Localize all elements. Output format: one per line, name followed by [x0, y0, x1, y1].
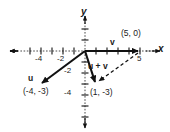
- coord-label-u: (-4, -3): [23, 87, 49, 96]
- y-axis-label: y: [81, 7, 87, 17]
- vector-addition-figure: x y -4 -2 5 -2 -4 u v u + v (-4, -3) (5,…: [0, 0, 170, 132]
- coord-label-u-plus-v: (1, -3): [90, 88, 113, 97]
- x-axis-label: x: [158, 44, 164, 54]
- x-tick-label-5: 5: [137, 55, 141, 63]
- vector-v-label: v: [110, 38, 115, 47]
- diagram-canvas: [0, 0, 170, 132]
- y-tick-label-neg4: -4: [64, 89, 71, 97]
- y-tick-label-neg2: -2: [64, 67, 71, 75]
- vector-u-plus-v-label: u + v: [88, 62, 108, 71]
- x-tick-label-neg2: -2: [57, 55, 64, 63]
- x-tick-label-neg4: -4: [35, 55, 42, 63]
- y-axis: [82, 16, 89, 128]
- vector-u-label: u: [28, 74, 33, 83]
- coord-label-v: (5, 0): [121, 29, 141, 38]
